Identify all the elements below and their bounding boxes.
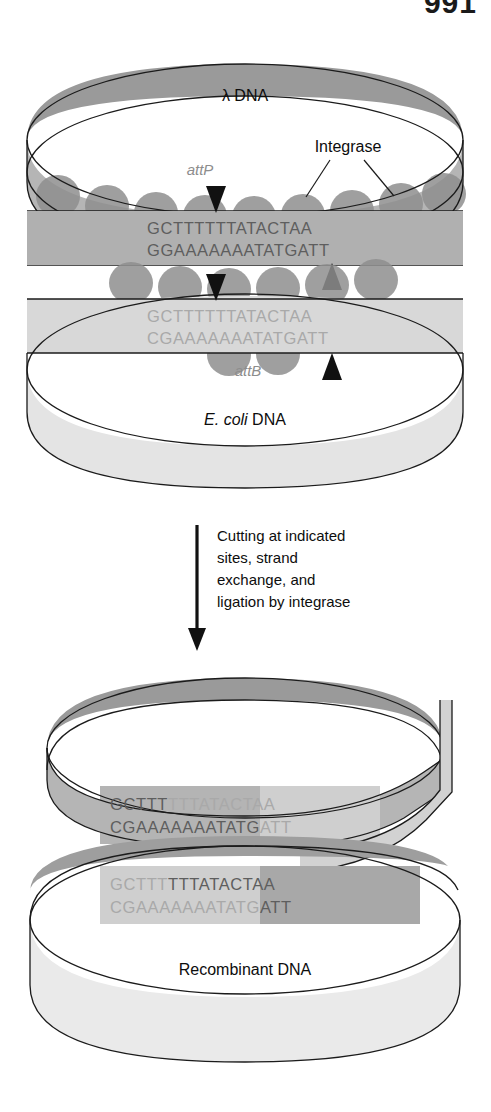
integrase-leader-line-left — [306, 160, 330, 197]
ecoli-ring-front-band — [27, 370, 463, 488]
ecoli-bottom-strand-sequence: CGAAAAAAATATGATT — [147, 329, 329, 347]
process-caption-line-2: sites, strand — [217, 549, 298, 566]
ecoli-dna-label-plain: DNA — [248, 411, 287, 428]
ecoli-dna-ring: GCTTTTTTATACTAA CGAAAAAAATATGATT attB E.… — [27, 259, 463, 488]
ecoli-top-strand-sequence: GCTTTTTTATACTAA — [147, 307, 312, 325]
recombinant-dna-figure: GCTTTTTTATACTAA CGAAAAAAATATGATT GCTTTTT… — [30, 678, 460, 1062]
recombinant-lower-front-band — [30, 920, 460, 1062]
integrase-label: Integrase — [315, 138, 382, 155]
lambda-top-strand-sequence: GCTTTTTTATACTAA — [147, 219, 312, 237]
process-arrow-group: Cutting at indicated sites, strand excha… — [188, 525, 350, 651]
lambda-dna-ring: λ DNA attP Integrase GCTTTTTTATACTAA GGA… — [27, 64, 466, 290]
process-caption-line-4: ligation by integrase — [217, 593, 350, 610]
recombinant-dna-label: Recombinant DNA — [179, 961, 312, 978]
recombinant-1-bottom-prefix: CGAAAAAAATATG — [110, 818, 260, 836]
recombinant-1-bottom-strand-sequence: CGAAAAAAATATGATT — [110, 818, 292, 836]
lambda-dna-label: λ DNA — [222, 87, 269, 104]
recombinant-2-bottom-strand-sequence: CGAAAAAAATATGATT — [110, 898, 292, 916]
recombinant-1-top-strand-sequence: GCTTTTTTATACTAA — [110, 795, 275, 813]
recombinant-1-bottom-suffix: ATT — [260, 818, 292, 836]
recombinant-2-top-prefix: GCTTT — [110, 875, 168, 893]
attp-label: attP — [187, 161, 214, 178]
recombinant-2-top-suffix: TTTATACTAA — [168, 875, 275, 893]
ecoli-dna-label-italic: E. coli — [204, 411, 248, 428]
ecoli-dna-label: E. coli DNA — [204, 411, 286, 428]
figure-root: 991 — [0, 0, 491, 1112]
recombinant-1-top-suffix: TTTATACTAA — [168, 795, 275, 813]
attb-label: attB — [235, 362, 262, 379]
process-caption-line-3: exchange, and — [217, 571, 315, 588]
integrase-leader-line-right — [364, 160, 394, 196]
process-arrow-head — [188, 628, 206, 651]
cut-site-marker-ecoli-right — [322, 353, 342, 380]
process-caption-line-1: Cutting at indicated — [217, 527, 345, 544]
recombinant-2-bottom-prefix: CGAAAAAAATATG — [110, 898, 260, 916]
lambda-bottom-strand-sequence: GGAAAAAAATATGATT — [147, 241, 330, 259]
recombinant-upper-inner-arc — [47, 700, 443, 770]
recombinant-upper-top-band — [47, 678, 443, 748]
recombinant-2-top-strand-sequence: GCTTTTTTATACTAA — [110, 875, 275, 893]
recombinant-1-top-prefix: GCTTT — [110, 795, 168, 813]
recombinant-2-bottom-suffix: ATT — [260, 898, 292, 916]
lambda-integration-diagram: λ DNA attP Integrase GCTTTTTTATACTAA GGA… — [0, 0, 491, 1112]
